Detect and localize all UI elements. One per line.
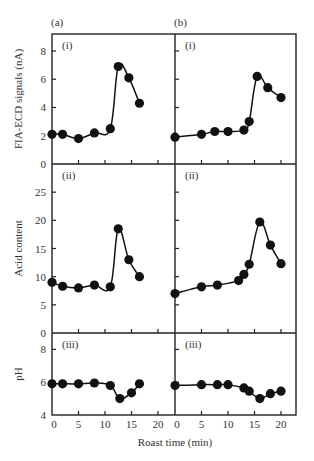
data-point xyxy=(47,379,56,388)
data-point xyxy=(114,62,123,71)
data-point xyxy=(276,259,285,268)
panel-label: (i) xyxy=(185,39,196,52)
x-tick-label: 5 xyxy=(199,418,205,430)
series-a-ii xyxy=(47,224,144,292)
x-tick-label: 10 xyxy=(100,418,112,430)
x-tick-label: 0 xyxy=(51,418,57,430)
panel-label: (i) xyxy=(62,39,73,52)
data-point xyxy=(124,255,133,264)
data-point xyxy=(47,278,56,287)
data-series xyxy=(47,62,285,403)
data-point xyxy=(276,93,285,102)
y-tick-label: 0 xyxy=(41,327,47,339)
y-tick-label: 8 xyxy=(41,45,47,57)
panel-label: (ii) xyxy=(62,169,76,182)
x-tick-label: 20 xyxy=(276,418,288,430)
data-point xyxy=(245,387,254,396)
data-point xyxy=(213,380,222,389)
y-tick-label: 10 xyxy=(35,271,47,283)
data-point xyxy=(170,289,179,298)
data-point xyxy=(245,260,254,269)
y-tick-label: 4 xyxy=(41,409,47,421)
data-point xyxy=(223,127,232,136)
data-point xyxy=(253,72,262,81)
data-point xyxy=(74,283,83,292)
data-point xyxy=(58,379,67,388)
data-point xyxy=(197,130,206,139)
series-b-ii xyxy=(170,217,285,298)
y-axis-label: pH xyxy=(12,367,24,381)
y-tick-label: 15 xyxy=(35,243,47,255)
x-tick-label: 10 xyxy=(223,418,235,430)
panel-label: (ii) xyxy=(185,169,199,182)
data-point xyxy=(263,83,272,92)
data-point xyxy=(239,125,248,134)
x-axis-label: Roast time (min) xyxy=(138,436,213,449)
data-point xyxy=(90,281,99,290)
data-point xyxy=(115,394,124,403)
axis-ticks xyxy=(52,51,281,415)
x-tick-label: 5 xyxy=(76,418,82,430)
y-axis-label: Acid content xyxy=(12,220,24,277)
x-tick-label: 15 xyxy=(249,418,261,430)
data-point xyxy=(135,272,144,281)
series-b-iii xyxy=(170,380,285,403)
data-point xyxy=(245,117,254,126)
column-label: (a) xyxy=(51,16,64,29)
y-axis-label: FIA-ECD signals (nA) xyxy=(12,49,25,150)
column-label: (b) xyxy=(174,16,187,29)
data-point xyxy=(266,241,275,250)
data-point xyxy=(90,128,99,137)
y-tick-label: 6 xyxy=(41,73,47,85)
data-point xyxy=(90,378,99,387)
data-point xyxy=(135,379,144,388)
y-tick-label: 4 xyxy=(41,101,47,113)
y-tick-label: 0 xyxy=(41,158,47,170)
data-point xyxy=(210,127,219,136)
data-point xyxy=(58,282,67,291)
y-tick-label: 8 xyxy=(41,343,47,355)
data-point xyxy=(135,99,144,108)
data-point xyxy=(106,124,115,133)
data-point xyxy=(124,73,133,82)
data-point xyxy=(213,281,222,290)
x-tick-label: 20 xyxy=(153,418,165,430)
y-tick-label: 6 xyxy=(41,376,47,388)
data-point xyxy=(239,270,248,279)
chart: (a)(b)02468(i)(i)FIA-ECD signals (nA)051… xyxy=(0,0,314,461)
data-point xyxy=(114,224,123,233)
data-point xyxy=(106,282,115,291)
series-b-i xyxy=(170,72,285,142)
series-line xyxy=(175,222,281,294)
data-point xyxy=(106,381,115,390)
data-point xyxy=(170,381,179,390)
data-point xyxy=(74,134,83,143)
series-a-i xyxy=(47,62,144,143)
data-point xyxy=(223,380,232,389)
y-tick-label: 5 xyxy=(41,299,47,311)
data-point xyxy=(276,387,285,396)
data-point xyxy=(170,133,179,142)
y-tick-label: 2 xyxy=(41,130,47,142)
y-tick-label: 20 xyxy=(35,214,47,226)
data-point xyxy=(197,282,206,291)
series-a-iii xyxy=(47,378,144,403)
x-tick-label: 15 xyxy=(126,418,138,430)
data-point xyxy=(255,217,264,226)
data-point xyxy=(127,388,136,397)
data-point xyxy=(58,130,67,139)
data-point xyxy=(197,380,206,389)
x-tick-label: 0 xyxy=(174,418,180,430)
y-tick-label: 25 xyxy=(35,186,47,198)
data-point xyxy=(47,130,56,139)
panel-label: (iii) xyxy=(62,338,79,351)
data-point xyxy=(266,389,275,398)
panel-label: (iii) xyxy=(185,338,202,351)
data-point xyxy=(255,394,264,403)
data-point xyxy=(74,379,83,388)
